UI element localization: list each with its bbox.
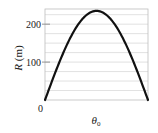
y-axis-label: R (m) [12,45,25,72]
grid-lines [45,15,148,91]
x-axis-label-sub: 0 [97,120,101,128]
range-vs-angle-chart: 0100200 R (m) θ0 [0,0,158,133]
x-axis-label: θ0 [92,114,101,128]
plot-frame [45,9,148,100]
y-axis-label-unit: (m) [12,45,25,64]
y-tick-label: 200 [26,19,41,30]
y-tick-label: 100 [26,57,41,68]
y-tick-label: 0 [38,103,43,114]
